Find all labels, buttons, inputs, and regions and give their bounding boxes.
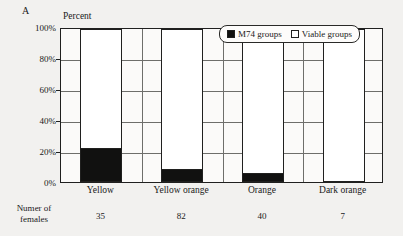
footer-row-title-line1: Numer of — [8, 203, 60, 214]
stacked-bar[interactable] — [323, 29, 365, 182]
category-label: Dark orange — [319, 186, 366, 196]
white-square-icon — [291, 30, 299, 38]
bar-segment-viable — [162, 30, 202, 169]
bar-segment-m74 — [81, 148, 121, 181]
y-tick-label: 60% — [40, 86, 57, 95]
footer-row-title-line2: females — [8, 214, 60, 225]
legend-entry-m74: M74 groups — [227, 29, 282, 39]
bar-segment-viable — [243, 30, 283, 173]
y-tick-label: 100% — [35, 24, 56, 33]
footer-sample-size: 7 — [340, 212, 345, 221]
y-tick-label: 20% — [40, 148, 57, 157]
legend-label-m74: M74 groups — [238, 29, 282, 39]
x-axis-category-labels: YellowYellow orangeOrangeDark orange — [60, 186, 383, 200]
category-label: Yellow orange — [154, 186, 209, 196]
bar-segment-viable — [81, 30, 121, 148]
footer-row-title: Numer of females — [8, 203, 60, 226]
plot-area — [60, 28, 383, 183]
y-axis-title: Percent — [63, 12, 92, 22]
bar-slot — [223, 29, 304, 182]
bar-segment-m74 — [243, 173, 283, 181]
footer-sample-size: 35 — [96, 212, 105, 221]
bar-segment-m74 — [162, 169, 202, 181]
stacked-bar[interactable] — [242, 29, 284, 182]
bar-slot — [303, 29, 384, 182]
bar-slot — [142, 29, 223, 182]
black-square-icon — [227, 30, 235, 38]
y-tick-label: 40% — [40, 117, 57, 126]
footer-sample-sizes: 3582407 — [60, 212, 383, 224]
bar-segment-viable — [324, 30, 364, 181]
category-label: Orange — [248, 186, 276, 196]
bar-slot — [61, 29, 142, 182]
panel-letter: A — [22, 6, 29, 16]
category-label: Yellow — [87, 186, 114, 196]
stacked-bar[interactable] — [80, 29, 122, 182]
y-tick-label: 80% — [40, 55, 57, 64]
y-tick-label: 0% — [44, 179, 56, 188]
chart-legend: M74 groups Viable groups — [219, 25, 360, 43]
stacked-bar[interactable] — [161, 29, 203, 182]
legend-label-viable: Viable groups — [302, 29, 352, 39]
footer-sample-size: 82 — [177, 212, 186, 221]
footer-sample-size: 40 — [257, 212, 266, 221]
legend-entry-viable: Viable groups — [291, 29, 352, 39]
